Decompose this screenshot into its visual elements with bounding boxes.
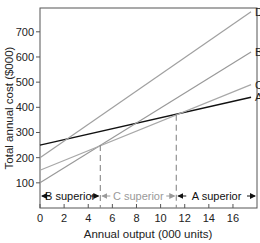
cost-chart: 100200300400500600700 0246810121416 ABCD…	[0, 0, 260, 243]
line-label-a: A	[255, 91, 260, 103]
x-tick-label: 16	[227, 212, 239, 224]
x-tick-label: 0	[37, 212, 43, 224]
x-axis-label: Annual output (000 units)	[84, 228, 213, 240]
x-tick-label: 6	[109, 212, 115, 224]
cost-lines: ABCD	[40, 6, 260, 183]
y-tick-label: 600	[16, 51, 34, 63]
y-tick-label: 300	[16, 126, 34, 138]
line-c	[40, 85, 251, 171]
x-tick-label: 4	[85, 212, 91, 224]
line-label-d: D	[255, 6, 260, 18]
line-b	[40, 52, 251, 183]
region-label: A superior	[192, 190, 242, 202]
region-label: C superior	[113, 190, 164, 202]
region-label: B superior	[45, 190, 95, 202]
x-tick-label: 2	[61, 212, 67, 224]
superiority-regions: B superiorC superiorA superior	[42, 190, 255, 202]
x-tick-label: 8	[133, 212, 139, 224]
x-axis-ticks: 0246810121416	[37, 204, 239, 224]
y-tick-label: 100	[16, 177, 34, 189]
x-tick-label: 10	[154, 212, 166, 224]
x-tick-label: 12	[179, 212, 191, 224]
plot-frame	[40, 8, 257, 208]
line-label-c: C	[255, 79, 260, 91]
y-tick-label: 700	[16, 26, 34, 38]
line-d	[40, 12, 251, 158]
x-tick-label: 14	[203, 212, 215, 224]
y-tick-label: 200	[16, 152, 34, 164]
y-axis-label: Total annual cost ($000)	[3, 46, 15, 169]
y-tick-label: 400	[16, 101, 34, 113]
line-a	[40, 97, 251, 145]
y-axis-ticks: 100200300400500600700	[16, 26, 40, 189]
y-tick-label: 500	[16, 76, 34, 88]
line-label-b: B	[255, 46, 260, 58]
